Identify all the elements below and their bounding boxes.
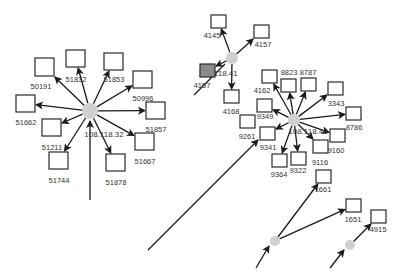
host-box[interactable]	[260, 127, 275, 140]
host-node[interactable]: 51857	[146, 102, 167, 134]
host-box[interactable]	[49, 152, 68, 169]
host-box[interactable]	[291, 152, 306, 165]
host-node[interactable]: 9116	[312, 140, 328, 167]
hub-circle[interactable]	[226, 52, 238, 64]
host-node[interactable]: 8823	[281, 68, 298, 92]
host-box[interactable]	[224, 90, 239, 103]
edge-hB-4915	[354, 224, 371, 241]
host-node[interactable]: 8787	[300, 68, 317, 91]
host-box[interactable]	[316, 170, 331, 183]
host-node[interactable]: 1661	[315, 170, 332, 194]
host-label: 8823	[281, 68, 298, 77]
host-node[interactable]: 51662	[16, 95, 37, 127]
host-box[interactable]	[257, 99, 272, 112]
host-box[interactable]	[281, 79, 296, 92]
host-node[interactable]: 9349	[257, 99, 274, 121]
host-node[interactable]: 4157	[194, 64, 215, 90]
host-label: 9322	[290, 166, 307, 175]
hub-node[interactable]	[345, 240, 355, 250]
host-label: 4168	[223, 107, 240, 116]
edge-h32-51832	[78, 68, 88, 103]
host-node[interactable]: 4145	[204, 15, 226, 40]
host-node[interactable]: 51878	[106, 154, 127, 187]
host-node[interactable]: 4162	[254, 70, 277, 95]
host-node[interactable]: 9160	[328, 129, 345, 155]
host-box[interactable]	[301, 78, 316, 91]
host-box-highlighted[interactable]	[200, 64, 215, 77]
host-label: 4157	[255, 40, 272, 49]
edge-h32-51211	[62, 114, 83, 123]
host-box[interactable]	[135, 133, 154, 150]
host-node[interactable]: 8786	[346, 107, 363, 132]
hub-circle[interactable]	[345, 240, 355, 250]
host-node[interactable]: 51211	[42, 119, 62, 152]
network-diagram: 108.118.32108.118.41108.118.46 501915183…	[0, 0, 398, 275]
host-box[interactable]	[346, 107, 361, 120]
host-node[interactable]: 50996	[133, 71, 154, 103]
hub-circle[interactable]	[82, 103, 98, 119]
host-box[interactable]	[254, 25, 269, 38]
host-label: 51667	[135, 157, 156, 166]
host-box[interactable]	[146, 102, 165, 119]
host-node[interactable]: 51744	[49, 152, 70, 185]
edge-h46-8787	[296, 92, 305, 114]
edge-h46-8823	[290, 93, 293, 114]
host-node[interactable]: 9322	[290, 152, 307, 175]
host-label: 51211	[42, 143, 62, 152]
hub-circle[interactable]	[270, 236, 280, 246]
host-node[interactable]: 50191	[31, 58, 54, 91]
host-label: 8786	[346, 123, 363, 132]
edge-h41-4145	[221, 29, 230, 52]
edge-hA-1661	[278, 184, 318, 237]
host-node[interactable]: 3343	[328, 82, 345, 108]
host-label: 9261	[239, 132, 256, 141]
host-box[interactable]	[106, 154, 125, 171]
host-node[interactable]: 9364	[271, 154, 288, 179]
host-box[interactable]	[371, 210, 386, 223]
host-box[interactable]	[16, 95, 35, 112]
edge-h46-9349	[273, 110, 289, 118]
host-label: 9116	[312, 158, 328, 167]
edge-hA-1651	[280, 209, 345, 239]
host-label: 51878	[106, 178, 127, 187]
host-node[interactable]: 4915	[370, 210, 387, 234]
host-box[interactable]	[35, 58, 54, 76]
host-node[interactable]: 9261	[239, 115, 256, 141]
host-box[interactable]	[328, 82, 343, 95]
nodes-layer: 5019151832518535099651662518575121151667…	[16, 15, 387, 234]
host-node[interactable]: 51667	[135, 133, 156, 166]
host-box[interactable]	[240, 115, 255, 128]
host-label: 8787	[300, 68, 317, 77]
edge-h41-4157b	[216, 61, 227, 66]
host-node[interactable]: 51853	[104, 53, 125, 84]
hub-label: 108.118.46	[288, 127, 328, 136]
host-node[interactable]: 9341	[260, 127, 277, 152]
host-box[interactable]	[133, 71, 152, 88]
host-label: 9341	[260, 143, 277, 152]
hub-circle[interactable]	[288, 114, 300, 126]
host-box[interactable]	[262, 70, 277, 83]
host-node[interactable]: 1651	[345, 199, 362, 224]
host-box[interactable]	[313, 140, 328, 153]
host-label: 4915	[370, 225, 387, 234]
host-node[interactable]: 4157	[254, 25, 271, 49]
host-label: 4145	[204, 31, 221, 40]
host-box[interactable]	[104, 53, 123, 70]
edge-h46-9341	[276, 123, 289, 129]
hub-node[interactable]	[270, 236, 280, 246]
host-label: 9364	[271, 170, 288, 179]
host-box[interactable]	[346, 199, 361, 212]
host-label: 51662	[16, 118, 37, 127]
host-box[interactable]	[42, 119, 61, 136]
host-box[interactable]	[272, 154, 287, 167]
host-box[interactable]	[66, 50, 85, 67]
host-label: 9160	[328, 146, 345, 155]
host-label: 1661	[315, 185, 332, 194]
host-box[interactable]	[211, 15, 226, 28]
incoming-edge	[148, 140, 258, 250]
host-label: 1651	[345, 215, 362, 224]
host-node[interactable]: 51832	[66, 50, 87, 84]
hub-node[interactable]: 108.118.32	[82, 103, 124, 139]
host-node[interactable]: 4168	[223, 90, 240, 116]
host-box[interactable]	[330, 129, 345, 142]
